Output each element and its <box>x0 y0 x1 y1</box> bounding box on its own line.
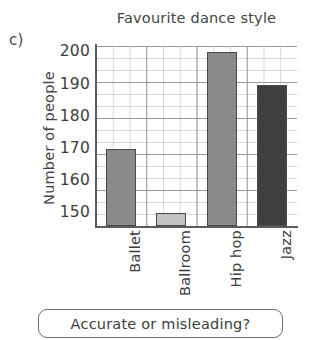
prompt-box[interactable]: Accurate or misleading? <box>38 309 283 338</box>
chart-title: Favourite dance style <box>96 10 297 26</box>
x-tick-label: Hip hop <box>228 230 244 287</box>
y-tick-label: 150 <box>44 205 90 221</box>
bar-jazz <box>257 85 287 226</box>
x-tick-label: Ballroom <box>177 230 193 296</box>
x-tick-label: Jazz <box>278 230 294 259</box>
question-letter: c) <box>9 31 24 49</box>
bar-ballet <box>106 149 136 226</box>
prompt-text: Accurate or misleading? <box>71 316 251 332</box>
y-tick-label: 190 <box>44 77 90 93</box>
y-tick-label: 180 <box>44 109 90 125</box>
x-axis-category-labels: BalletBallroomHip hopJazz <box>96 230 297 296</box>
y-tick-label: 170 <box>44 141 90 157</box>
y-axis-line <box>95 44 97 228</box>
y-tick-label: 160 <box>44 173 90 189</box>
x-tick-label: Ballet <box>127 230 143 273</box>
y-axis-tick-labels: 150160170180190200 <box>42 46 90 226</box>
chart-plot-area <box>96 46 297 226</box>
bar-ballroom <box>156 213 186 226</box>
x-axis-line <box>95 226 298 228</box>
bar-hip-hop <box>207 52 237 226</box>
y-tick-label: 200 <box>44 44 90 60</box>
